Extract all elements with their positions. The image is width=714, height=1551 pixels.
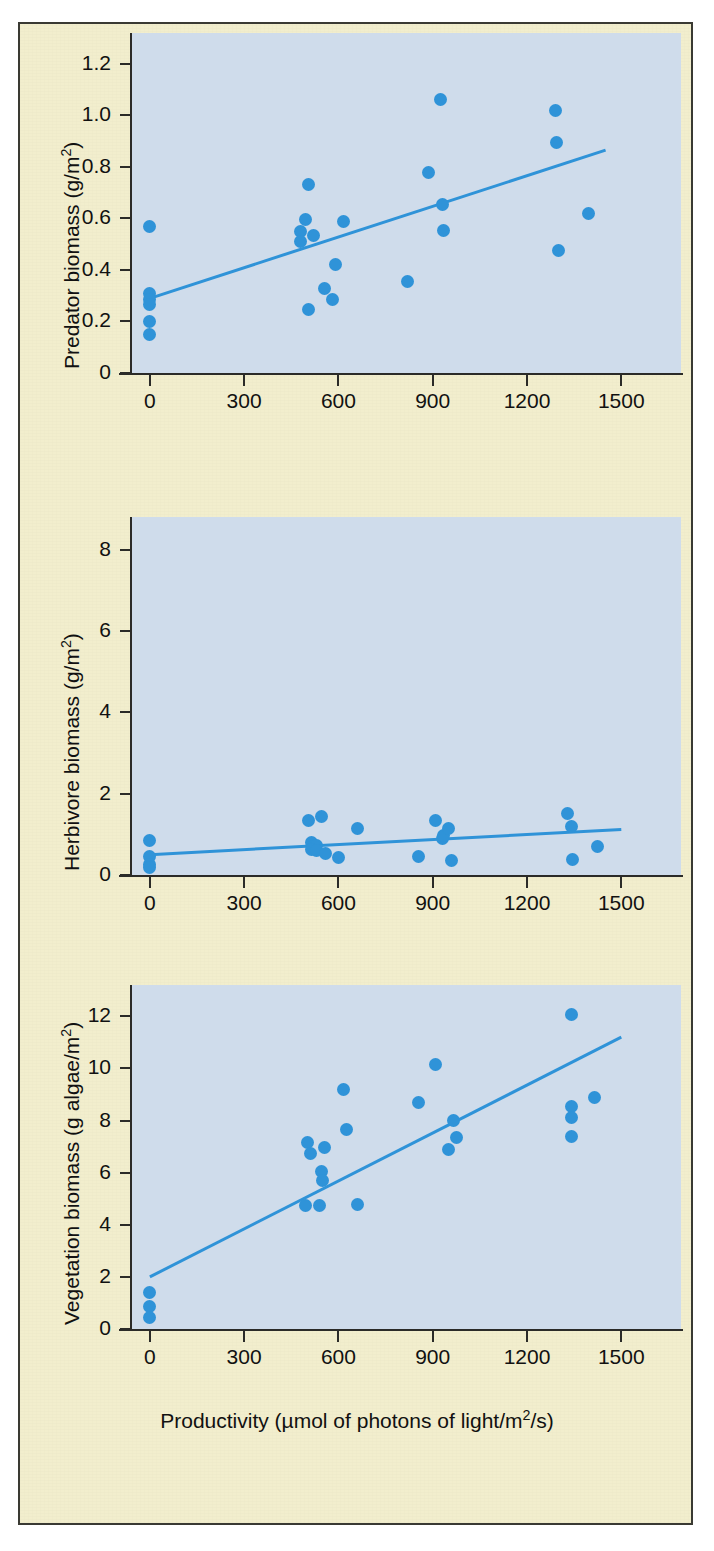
panel-3: 024681012030060090012001500Vegetation bi… bbox=[0, 0, 714, 1551]
x-axis-title-text: Productivity (µmol of photons of light/m bbox=[160, 1409, 522, 1432]
y-tick bbox=[120, 1015, 131, 1017]
y-tick bbox=[120, 1120, 131, 1122]
x-tick bbox=[620, 1331, 622, 1342]
y-tick bbox=[120, 1328, 131, 1330]
shared-x-axis-title: Productivity (µmol of photons of light/m… bbox=[0, 1407, 714, 1433]
y-axis-title-suffix: ) bbox=[60, 1022, 83, 1029]
data-point bbox=[442, 1143, 455, 1156]
x-tick bbox=[243, 1331, 245, 1342]
data-point bbox=[337, 1083, 350, 1096]
x-axis-line-3 bbox=[119, 1329, 683, 1331]
data-point bbox=[565, 1111, 578, 1124]
data-point bbox=[304, 1147, 317, 1160]
x-tick-label: 300 bbox=[194, 1345, 294, 1369]
data-point bbox=[565, 1008, 578, 1021]
y-axis-title-exponent: 2 bbox=[58, 1029, 74, 1037]
data-point bbox=[588, 1091, 601, 1104]
y-tick bbox=[120, 1067, 131, 1069]
x-tick bbox=[526, 1331, 528, 1342]
y-tick bbox=[120, 1224, 131, 1226]
data-point bbox=[450, 1131, 463, 1144]
data-point bbox=[351, 1198, 364, 1211]
x-tick-label: 600 bbox=[288, 1345, 388, 1369]
data-point bbox=[447, 1114, 460, 1127]
y-axis-title-text: Vegetation biomass (g algae/m bbox=[60, 1037, 83, 1325]
data-point bbox=[340, 1123, 353, 1136]
x-tick-label: 0 bbox=[100, 1345, 200, 1369]
x-tick-label: 1500 bbox=[571, 1345, 671, 1369]
x-tick bbox=[432, 1331, 434, 1342]
x-axis-title-suffix: /s) bbox=[530, 1409, 553, 1432]
y-tick bbox=[120, 1172, 131, 1174]
data-point bbox=[313, 1199, 326, 1212]
x-tick bbox=[149, 1331, 151, 1342]
y-axis-title-3: Vegetation biomass (g algae/m2) bbox=[58, 1022, 84, 1325]
x-tick-label: 900 bbox=[383, 1345, 483, 1369]
y-tick bbox=[120, 1276, 131, 1278]
figure-container: 00.20.40.60.81.01.2030060090012001500Pre… bbox=[0, 0, 714, 1551]
y-axis-line-3 bbox=[130, 985, 132, 1331]
x-tick-label: 1200 bbox=[477, 1345, 577, 1369]
x-tick bbox=[337, 1331, 339, 1342]
data-point bbox=[299, 1199, 312, 1212]
data-point bbox=[412, 1096, 425, 1109]
data-point bbox=[565, 1130, 578, 1143]
